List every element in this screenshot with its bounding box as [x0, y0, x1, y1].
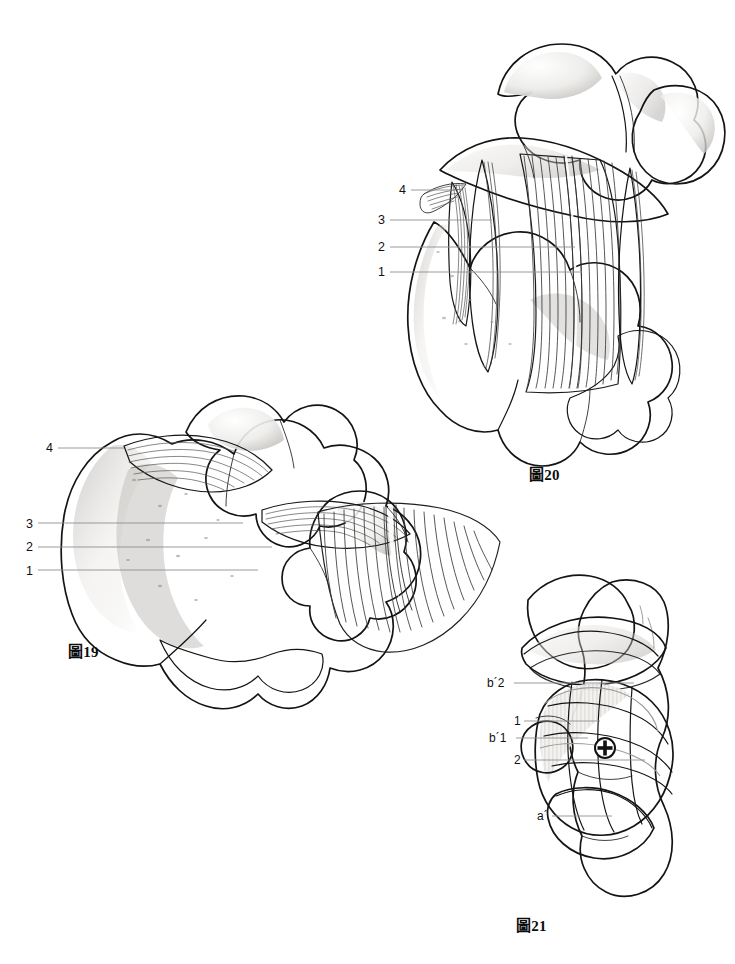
figure-20-drawing	[408, 44, 725, 466]
figure-19-label-3: 3	[26, 518, 33, 531]
figure-19-caption: 圖19	[68, 645, 99, 660]
figure-20-label-3: 3	[378, 214, 385, 227]
anatomy-illustrations: .ol { fill:none; stroke:#141414; stroke-…	[0, 0, 735, 964]
figure-19-label-1: 1	[26, 565, 33, 578]
figure-20-caption: 圖20	[529, 468, 560, 483]
atlas-page: .ol { fill:none; stroke:#141414; stroke-…	[0, 0, 735, 964]
figure-20-label-4: 4	[399, 184, 406, 197]
figure-21-label-1: 1	[514, 715, 521, 727]
figure-21-label-b1: b´1	[489, 732, 506, 744]
figure-20-label-1: 1	[378, 266, 385, 279]
figure-21-drawing	[521, 575, 673, 896]
figure-21-caption: 圖21	[516, 919, 547, 934]
figure-21-label-b2: b´2	[487, 677, 504, 689]
figure-19-drawing	[61, 396, 500, 709]
figure-20-label-2: 2	[378, 241, 385, 254]
figure-19-label-2: 2	[26, 541, 33, 554]
crosshair-marker	[595, 738, 615, 758]
figure-21-label-a: a´	[537, 810, 548, 822]
figure-21-label-2: 2	[514, 754, 521, 766]
figure-19-label-4: 4	[46, 442, 53, 455]
